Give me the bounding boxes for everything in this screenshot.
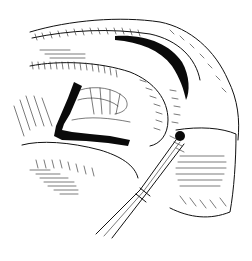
middle-fold (30, 63, 168, 146)
lower-left-tissue (22, 142, 138, 178)
incision-mark (54, 82, 130, 146)
surgical-instrument (96, 140, 184, 238)
right-tissue-hatching (170, 136, 226, 208)
lower-left-hatching (30, 160, 94, 194)
middle-hatching (32, 62, 180, 130)
instrument-tip-spot (175, 131, 185, 141)
surgical-illustration (0, 0, 252, 261)
